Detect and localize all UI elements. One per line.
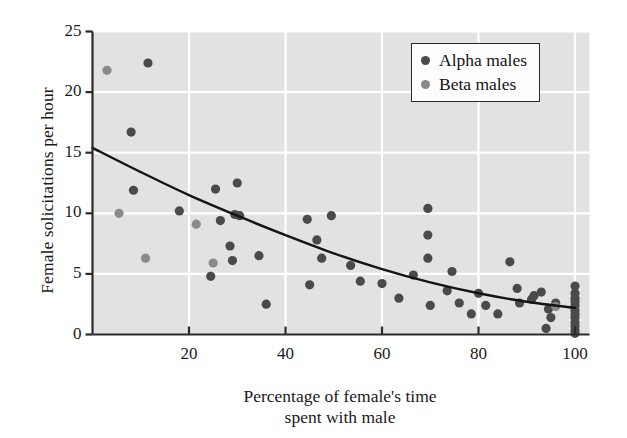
legend-marker-icon xyxy=(421,80,430,89)
data-point xyxy=(346,261,355,270)
data-point xyxy=(228,256,237,265)
data-point xyxy=(423,231,432,240)
data-point xyxy=(537,287,546,296)
x-tick-label: 20 xyxy=(164,344,214,364)
x-tick-label: 40 xyxy=(261,344,311,364)
x-axis-label: Percentage of female's time spent with m… xyxy=(92,386,588,429)
data-point xyxy=(225,241,234,250)
y-tick-label: 15 xyxy=(42,142,82,162)
chart-page: Female solicitations per hour Percentage… xyxy=(0,0,627,438)
data-point xyxy=(377,279,386,288)
data-point xyxy=(467,309,476,318)
data-point xyxy=(493,309,502,318)
data-point xyxy=(206,272,215,281)
data-point xyxy=(455,298,464,307)
data-point xyxy=(129,186,138,195)
data-point xyxy=(505,257,514,266)
data-point xyxy=(426,301,435,310)
data-point xyxy=(141,254,150,263)
data-point xyxy=(233,178,242,187)
data-point xyxy=(114,209,123,218)
data-point xyxy=(303,215,312,224)
y-tick-label: 20 xyxy=(42,81,82,101)
data-point xyxy=(127,128,136,137)
data-point xyxy=(312,235,321,244)
data-point xyxy=(209,258,218,267)
y-tick-label: 10 xyxy=(42,202,82,222)
scatter-plot-figure: Female solicitations per hour Percentage… xyxy=(0,0,627,438)
data-point xyxy=(216,216,225,225)
legend-marker-icon xyxy=(421,56,430,65)
legend: Alpha malesBeta males xyxy=(411,43,540,102)
x-tick-label: 80 xyxy=(454,344,504,364)
data-point xyxy=(211,184,220,193)
data-point xyxy=(423,204,432,213)
x-axis-label-line2: spent with male xyxy=(92,407,588,428)
data-point xyxy=(481,301,490,310)
data-point xyxy=(546,313,555,322)
data-point xyxy=(356,277,365,286)
data-point xyxy=(143,58,152,67)
y-tick-label: 0 xyxy=(42,324,82,344)
legend-label: Beta males xyxy=(439,74,516,95)
data-point xyxy=(192,220,201,229)
legend-item: Alpha males xyxy=(421,48,527,72)
data-point xyxy=(394,294,403,303)
data-point xyxy=(513,284,522,293)
data-point xyxy=(175,206,184,215)
data-point xyxy=(262,300,271,309)
data-point xyxy=(254,251,263,260)
data-point xyxy=(102,66,111,75)
x-tick-label: 60 xyxy=(357,344,407,364)
legend-label: Alpha males xyxy=(439,50,527,71)
y-tick-label: 25 xyxy=(42,21,82,41)
x-axis-label-line1: Percentage of female's time xyxy=(92,386,588,407)
data-point xyxy=(305,280,314,289)
data-point xyxy=(447,267,456,276)
y-axis-label: Female solicitations per hour xyxy=(37,26,58,356)
y-tick-label: 5 xyxy=(42,263,82,283)
data-point xyxy=(541,324,550,333)
data-point xyxy=(317,254,326,263)
legend-item: Beta males xyxy=(421,72,527,96)
x-tick-label: 100 xyxy=(550,344,600,364)
data-point xyxy=(327,211,336,220)
data-point xyxy=(423,254,432,263)
